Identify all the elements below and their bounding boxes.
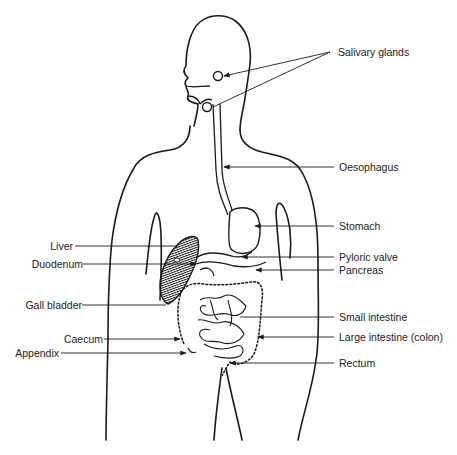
label-stomach: Stomach	[339, 220, 380, 232]
label-caecum: Caecum	[64, 333, 103, 345]
label-duodenum: Duodenum	[32, 258, 83, 270]
label-pancreas: Pancreas	[339, 264, 383, 276]
label-pyloric-valve: Pyloric valve	[339, 251, 398, 263]
small-intestine-shape	[198, 295, 246, 358]
label-salivary-glands: Salivary glands	[338, 46, 409, 58]
duodenum-pancreas-shape	[196, 252, 266, 276]
stomach-shape	[229, 208, 260, 254]
label-appendix: Appendix	[15, 347, 59, 359]
body-outline	[106, 16, 319, 440]
label-oesophagus: Oesophagus	[339, 161, 399, 173]
digestive-system-diagram	[0, 0, 457, 455]
label-liver: Liver	[50, 240, 73, 252]
oesophagus-shape	[213, 104, 232, 215]
label-small-intestine: Small intestine	[339, 311, 407, 323]
label-large-intestine: Large intestine (colon)	[339, 331, 443, 343]
label-rectum: Rectum	[339, 357, 375, 369]
large-intestine-shape	[178, 282, 263, 376]
label-gall-bladder: Gall bladder	[25, 299, 82, 311]
liver-shape	[160, 237, 199, 304]
gall-bladder-shape	[174, 258, 180, 262]
